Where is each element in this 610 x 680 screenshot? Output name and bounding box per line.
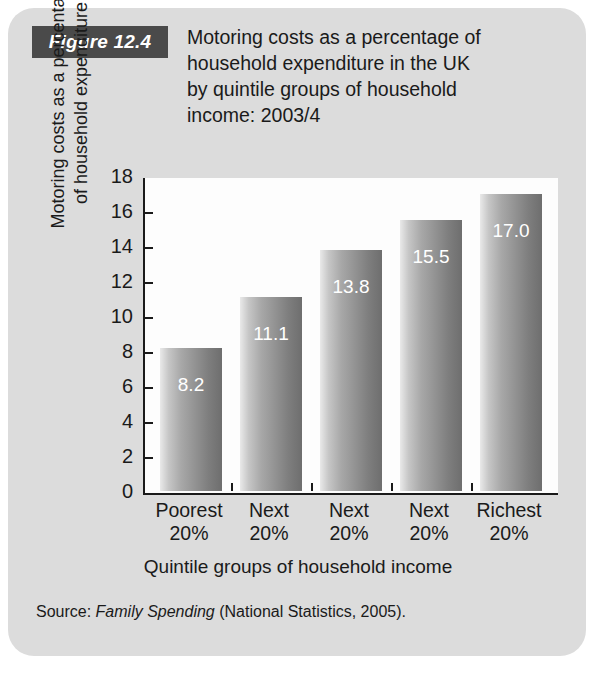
- y-axis-tick-label: 8: [95, 340, 133, 363]
- bar: 11.1: [240, 297, 302, 491]
- y-axis-tick-label: 14: [95, 235, 133, 258]
- x-axis-category-label: Next 20%: [309, 499, 389, 545]
- plot-area: 8.211.113.815.517.0: [143, 178, 558, 495]
- source-prefix: Source:: [36, 603, 96, 620]
- x-axis-category-label: Next 20%: [389, 499, 469, 545]
- y-axis-tick-label: 0: [95, 480, 133, 503]
- bar: 17.0: [480, 194, 542, 492]
- bar-slot: 11.1: [240, 178, 302, 491]
- bar-slot: 15.5: [400, 178, 462, 491]
- bar: 13.8: [320, 250, 382, 492]
- bar-slot: 8.2: [160, 178, 222, 491]
- y-axis-tick-label: 10: [95, 305, 133, 328]
- y-axis-tick-label: 6: [95, 375, 133, 398]
- bar-series: 8.211.113.815.517.0: [147, 178, 558, 491]
- x-axis-title: Quintile groups of household income: [63, 556, 533, 578]
- y-axis-tick-label: 12: [95, 270, 133, 293]
- y-axis-title: Motoring costs as a percentage of househ…: [47, 0, 93, 243]
- bar: 8.2: [160, 348, 222, 492]
- y-axis-tick-label: 4: [95, 410, 133, 433]
- bar-value-label: 8.2: [160, 374, 222, 396]
- bar-value-label: 11.1: [240, 323, 302, 345]
- bar-value-label: 17.0: [480, 220, 542, 242]
- bar-value-label: 15.5: [400, 246, 462, 268]
- y-axis-tick-label: 2: [95, 445, 133, 468]
- x-axis-category-label: Poorest 20%: [149, 499, 229, 545]
- source-note: Source: Family Spending (National Statis…: [36, 603, 406, 621]
- y-axis-tick-label: 16: [95, 200, 133, 223]
- bar-value-label: 13.8: [320, 276, 382, 298]
- x-axis-category-label: Next 20%: [229, 499, 309, 545]
- x-axis-category-label: Richest 20%: [469, 499, 549, 545]
- y-axis-tick-label: 18: [95, 165, 133, 188]
- bar: 15.5: [400, 220, 462, 491]
- bar-chart: Motoring costs as a percentage of househ…: [8, 8, 586, 656]
- source-publication: Family Spending: [96, 603, 215, 620]
- figure-card: Figure 12.4 Motoring costs as a percenta…: [8, 8, 586, 656]
- bar-slot: 13.8: [320, 178, 382, 491]
- bar-slot: 17.0: [480, 178, 542, 491]
- source-suffix: (National Statistics, 2005).: [215, 603, 406, 620]
